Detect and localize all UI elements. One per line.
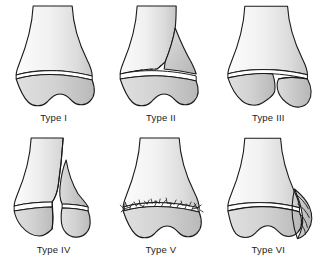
bone-diagram-type-5 — [107, 132, 214, 244]
panel-type-4: Type IV — [0, 132, 107, 264]
epiphysis-medial-type-3 — [228, 74, 275, 106]
lateral-fragment-type-4 — [60, 160, 90, 237]
metaphysis-shaft-type-6 — [228, 138, 300, 208]
metaphysis-shaft-type-3 — [228, 6, 308, 75]
bone-diagram-type-2 — [107, 0, 214, 112]
panel-grid: Type I — [0, 0, 322, 264]
panel-label-type-4: Type IV — [37, 245, 71, 255]
metaphysis-shaft-type-1 — [16, 6, 92, 76]
epiphysis-type-6 — [228, 207, 302, 238]
bone-diagram-type-4 — [0, 132, 107, 244]
epiphysis-type-2 — [120, 76, 198, 106]
panel-label-type-5: Type V — [146, 245, 177, 255]
bone-diagram-type-6 — [215, 132, 322, 244]
bone-diagram-type-1 — [0, 0, 107, 112]
panel-label-type-6: Type VI — [252, 245, 286, 255]
bone-diagram-type-3 — [215, 0, 322, 112]
panel-type-2: Type II — [107, 0, 214, 132]
epiphyseal-fragment-type-3 — [277, 77, 311, 107]
epiphysis-type-5 — [123, 207, 201, 238]
panel-type-6: Type VI — [215, 132, 322, 264]
epiphysis-medial-type-4 — [14, 207, 53, 236]
panel-type-5: Type V — [107, 132, 214, 264]
panel-label-type-1: Type I — [40, 113, 67, 123]
panel-label-type-2: Type II — [146, 113, 176, 123]
panel-type-3: Type III — [215, 0, 322, 132]
epiphysis-type-1 — [16, 75, 94, 106]
figure-root: Type I — [0, 0, 322, 264]
panel-type-1: Type I — [0, 0, 107, 132]
panel-label-type-3: Type III — [252, 113, 285, 123]
metaphysis-shaft-type-5 — [123, 138, 199, 208]
